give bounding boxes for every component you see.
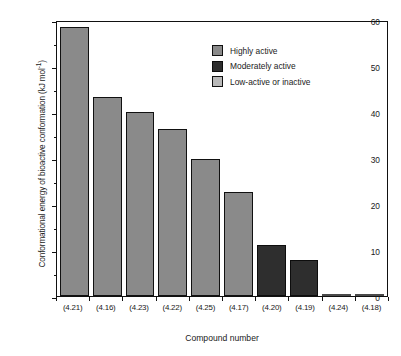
- x-tick-label: (4.19): [288, 303, 321, 312]
- legend-swatch-icon: [212, 76, 223, 87]
- x-axis-title: Compound number: [56, 333, 388, 343]
- bar-4.21[interactable]: [60, 27, 89, 296]
- x-tick: [189, 297, 190, 301]
- bar-slot: [320, 22, 353, 296]
- x-tick-label: (4.18): [355, 303, 388, 312]
- legend-item-lowactive[interactable]: Low-active or inactive: [212, 76, 311, 87]
- y-axis-title-exponent: -1: [35, 63, 42, 68]
- x-tick: [122, 297, 123, 301]
- legend: Highly activeModerately activeLow-active…: [212, 45, 311, 87]
- x-tick: [355, 297, 356, 301]
- bar-4.17[interactable]: [224, 192, 253, 296]
- x-tick-label: (4.23): [122, 303, 155, 312]
- bar-4.20[interactable]: [257, 245, 286, 296]
- bar-4.19[interactable]: [290, 260, 319, 296]
- bar-slot: [91, 22, 124, 296]
- x-tick-label: (4.17): [222, 303, 255, 312]
- x-tick: [156, 297, 157, 301]
- bar-4.24[interactable]: [322, 294, 351, 296]
- x-tick-label: (4.16): [89, 303, 122, 312]
- legend-item-highly[interactable]: Highly active: [212, 45, 311, 56]
- x-tick: [89, 297, 90, 301]
- x-tick: [222, 297, 223, 301]
- x-tick: [255, 297, 256, 301]
- bar-slot: [58, 22, 91, 296]
- x-tick-label: (4.20): [255, 303, 288, 312]
- x-tick: [56, 297, 57, 301]
- x-tick-label: (4.24): [322, 303, 355, 312]
- legend-swatch-icon: [212, 61, 223, 72]
- legend-label: Moderately active: [230, 61, 296, 71]
- legend-item-moderate[interactable]: Moderately active: [212, 61, 311, 72]
- bar-4.18[interactable]: [355, 294, 384, 296]
- bar-4.22[interactable]: [158, 129, 187, 296]
- x-tick: [288, 297, 289, 301]
- y-axis-title: Conformational energy of bioactive confo…: [35, 19, 47, 309]
- x-axis-labels: (4.21)(4.16)(4.23)(4.22)(4.25)(4.17)(4.2…: [56, 303, 388, 312]
- bar-slot: [156, 22, 189, 296]
- legend-swatch-icon: [212, 45, 223, 56]
- legend-label: Highly active: [230, 46, 277, 56]
- chart-figure: Conformational energy of bioactive confo…: [0, 0, 401, 356]
- x-tick-label: (4.25): [189, 303, 222, 312]
- x-tick: [322, 297, 323, 301]
- bar-4.23[interactable]: [126, 112, 155, 296]
- bar-4.25[interactable]: [191, 159, 220, 296]
- x-tick-label: (4.21): [56, 303, 89, 312]
- x-tick-label: (4.22): [156, 303, 189, 312]
- y-axis-title-text: Conformational energy of bioactive confo…: [38, 68, 47, 267]
- x-tick: [388, 297, 389, 301]
- bar-4.16[interactable]: [93, 97, 122, 296]
- y-axis-title-suffix: ): [38, 60, 47, 63]
- bar-slot: [124, 22, 157, 296]
- legend-label: Low-active or inactive: [230, 77, 311, 87]
- bar-slot: [353, 22, 386, 296]
